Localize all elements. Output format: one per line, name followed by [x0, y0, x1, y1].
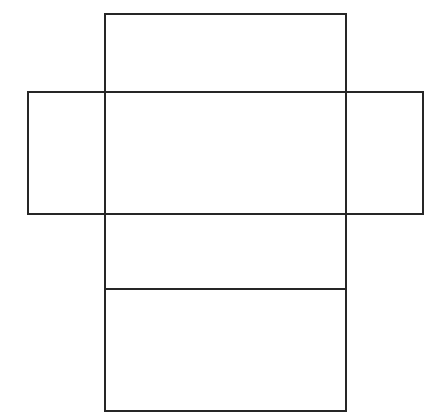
face-bottom	[105, 289, 346, 411]
face-top-flap	[105, 14, 346, 92]
face-left-flap	[28, 92, 105, 214]
face-center	[105, 92, 346, 214]
figure-root	[0, 0, 440, 417]
face-middle-lower	[105, 214, 346, 289]
box-net-diagram	[0, 0, 440, 417]
face-right-flap	[346, 92, 423, 214]
